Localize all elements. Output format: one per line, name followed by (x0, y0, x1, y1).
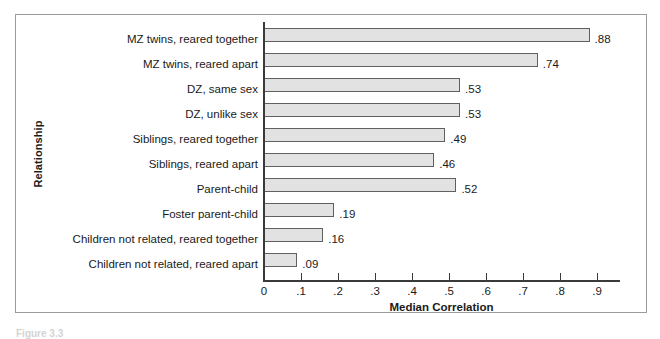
y-axis-line (263, 22, 265, 281)
bar (264, 253, 297, 267)
category-label: Foster parent-child (8, 208, 258, 220)
x-axis-tick-label: 0 (252, 285, 276, 298)
category-label: Children not related, reared together (8, 233, 258, 245)
x-axis-tick (412, 273, 413, 280)
x-axis-tick-label: .7 (511, 285, 535, 298)
bar (264, 153, 434, 167)
bar-value-label: .52 (461, 183, 477, 195)
bar (264, 178, 456, 192)
x-axis-tick (375, 273, 376, 280)
bar (264, 203, 334, 217)
x-axis-tick (449, 273, 450, 280)
x-axis-tick (338, 273, 339, 280)
bar-value-label: .19 (339, 208, 355, 220)
x-axis-tick-label: .6 (474, 285, 498, 298)
bar (264, 128, 445, 142)
x-axis-tick (523, 273, 524, 280)
bar-value-label: .74 (543, 58, 559, 70)
category-label: Children not related, reared apart (8, 258, 258, 270)
bar-value-label: .46 (439, 158, 455, 170)
bar-value-label: .16 (328, 233, 344, 245)
category-label: DZ, unlike sex (8, 108, 258, 120)
x-axis-tick (597, 273, 598, 280)
x-axis-tick-label: .4 (400, 285, 424, 298)
bar-value-label: .49 (450, 133, 466, 145)
bar (264, 53, 538, 67)
x-axis-tick-label: .1 (289, 285, 313, 298)
bar (264, 103, 460, 117)
bar (264, 78, 460, 92)
bar-value-label: .88 (595, 33, 611, 45)
category-label: MZ twins, reared apart (8, 58, 258, 70)
bar-value-label: .53 (465, 108, 481, 120)
category-label: MZ twins, reared together (8, 33, 258, 45)
category-label: Siblings, reared apart (8, 158, 258, 170)
x-axis-tick (486, 273, 487, 280)
x-axis-tick-label: .9 (585, 285, 609, 298)
bar (264, 228, 323, 242)
x-axis-tick (264, 273, 265, 280)
x-axis-line (263, 280, 620, 282)
x-axis-tick-label: .8 (548, 285, 572, 298)
category-label: DZ, same sex (8, 83, 258, 95)
x-axis-tick-label: .2 (326, 285, 350, 298)
figure-caption: Figure 3.3 (16, 328, 63, 339)
x-axis-tick (560, 273, 561, 280)
category-label: Siblings, reared together (8, 133, 258, 145)
bar-value-label: .53 (465, 83, 481, 95)
category-label: Parent-child (8, 183, 258, 195)
x-axis-tick-label: .3 (363, 285, 387, 298)
x-axis-tick-label: .5 (437, 285, 461, 298)
x-axis-title: Median Correlation (263, 301, 620, 313)
x-axis-tick (301, 273, 302, 280)
bar (264, 28, 590, 42)
bar-value-label: .09 (302, 258, 318, 270)
